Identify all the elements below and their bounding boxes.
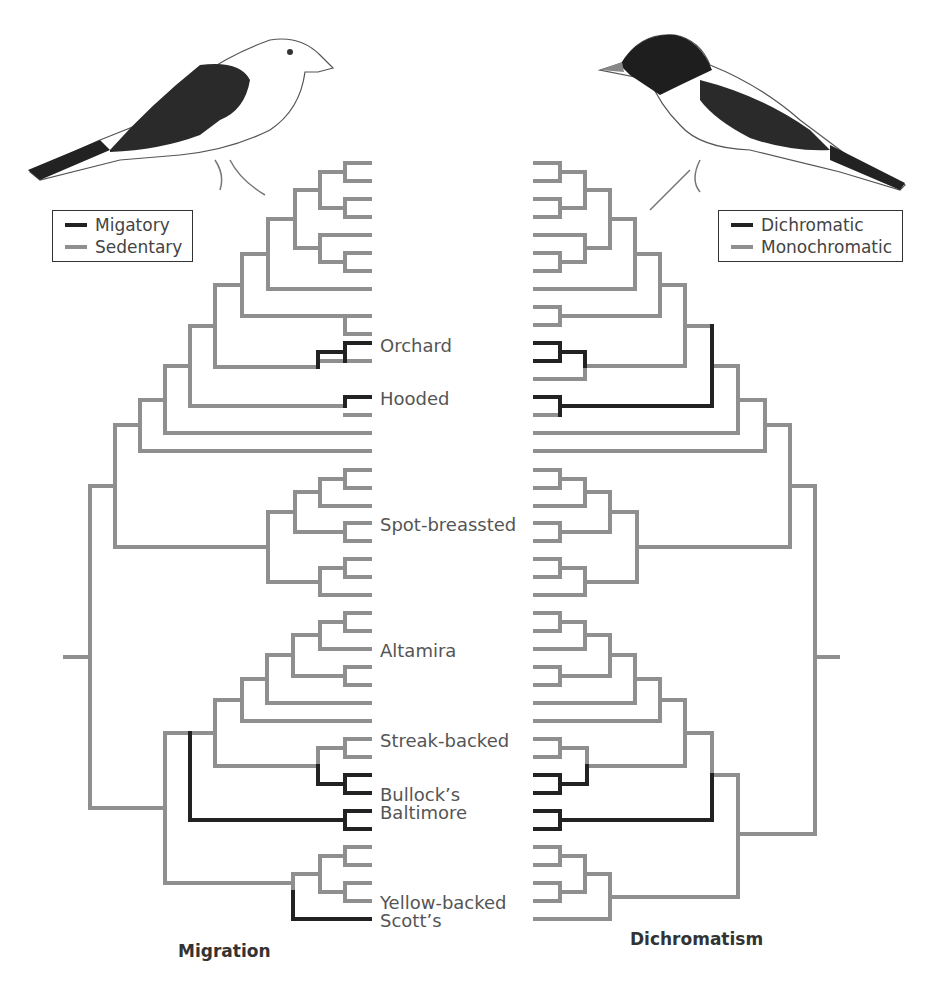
taxon-baltimore: Baltimore (380, 803, 467, 823)
legend-item-migratory: Migatory (65, 214, 182, 236)
taxon-hooded: Hooded (380, 389, 450, 409)
legend-item-sedentary: Sedentary (65, 236, 182, 258)
migration-tree (65, 163, 370, 919)
taxon-orchard: Orchard (380, 336, 452, 356)
migration-title: Migration (178, 941, 271, 961)
legend-label: Dichromatic (761, 214, 864, 236)
taxon-altamira: Altamira (380, 641, 456, 661)
right-bird-icon (600, 35, 905, 210)
dichromatism-legend: Dichromatic Monochromatic (718, 210, 903, 262)
dichromatic-swatch-icon (731, 223, 753, 227)
dichromatism-tree (535, 163, 838, 919)
legend-label: Monochromatic (761, 236, 892, 258)
legend-item-monochromatic: Monochromatic (731, 236, 892, 258)
migratory-swatch-icon (65, 223, 87, 227)
migration-legend: Migatory Sedentary (52, 210, 193, 262)
monochromatic-swatch-icon (731, 245, 753, 249)
taxon-spot-breasted: Spot-breassted (380, 515, 516, 535)
left-bird-icon (28, 39, 333, 195)
phylogeny-diagram (0, 0, 952, 993)
dichromatism-title: Dichromatism (630, 929, 763, 949)
legend-item-dichromatic: Dichromatic (731, 214, 892, 236)
legend-label: Sedentary (95, 236, 182, 258)
taxon-scotts: Scott’s (380, 911, 442, 931)
legend-label: Migatory (95, 214, 170, 236)
taxon-streak-backed: Streak-backed (380, 731, 509, 751)
sedentary-swatch-icon (65, 245, 87, 249)
